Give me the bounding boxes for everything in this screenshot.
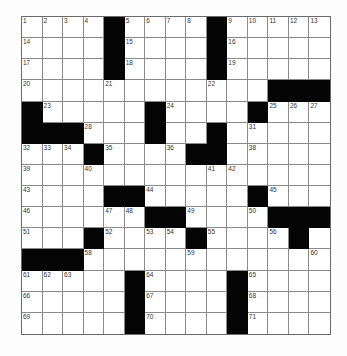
crossword-cell[interactable] [289, 292, 310, 313]
crossword-cell[interactable] [84, 38, 105, 59]
crossword-cell[interactable]: 14 [22, 38, 43, 59]
crossword-cell[interactable] [309, 313, 330, 334]
crossword-cell[interactable]: 65 [248, 271, 269, 292]
crossword-cell[interactable] [268, 249, 289, 270]
crossword-cell[interactable] [207, 271, 228, 292]
crossword-cell[interactable]: 46 [22, 207, 43, 228]
crossword-cell[interactable]: 39 [22, 165, 43, 186]
crossword-cell[interactable] [63, 313, 84, 334]
crossword-cell[interactable]: 32 [22, 144, 43, 165]
crossword-cell[interactable] [207, 292, 228, 313]
crossword-cell[interactable] [309, 38, 330, 59]
crossword-cell[interactable] [43, 228, 64, 249]
crossword-cell[interactable] [289, 123, 310, 144]
crossword-cell[interactable] [227, 123, 248, 144]
crossword-cell[interactable] [84, 313, 105, 334]
crossword-cell[interactable] [207, 186, 228, 207]
crossword-cell[interactable] [166, 186, 187, 207]
crossword-cell[interactable]: 52 [104, 228, 125, 249]
crossword-cell[interactable]: 50 [248, 207, 269, 228]
crossword-cell[interactable] [186, 102, 207, 123]
crossword-cell[interactable] [227, 249, 248, 270]
crossword-cell[interactable]: 44 [145, 186, 166, 207]
crossword-cell[interactable] [289, 313, 310, 334]
crossword-cell[interactable]: 27 [309, 102, 330, 123]
crossword-cell[interactable] [289, 186, 310, 207]
crossword-cell[interactable] [207, 207, 228, 228]
crossword-cell[interactable]: 55 [207, 228, 228, 249]
crossword-cell[interactable] [186, 38, 207, 59]
crossword-cell[interactable] [309, 123, 330, 144]
crossword-cell[interactable]: 60 [309, 249, 330, 270]
crossword-cell[interactable] [289, 271, 310, 292]
crossword-cell[interactable]: 71 [248, 313, 269, 334]
crossword-cell[interactable] [186, 271, 207, 292]
crossword-cell[interactable] [227, 207, 248, 228]
crossword-cell[interactable] [63, 207, 84, 228]
crossword-cell[interactable] [268, 144, 289, 165]
crossword-cell[interactable] [84, 271, 105, 292]
crossword-cell[interactable]: 51 [22, 228, 43, 249]
crossword-cell[interactable] [309, 59, 330, 80]
crossword-cell[interactable] [145, 144, 166, 165]
crossword-cell[interactable] [227, 80, 248, 101]
crossword-cell[interactable] [125, 165, 146, 186]
crossword-cell[interactable] [166, 165, 187, 186]
crossword-cell[interactable]: 2 [43, 17, 64, 38]
crossword-cell[interactable] [186, 313, 207, 334]
crossword-cell[interactable]: 34 [63, 144, 84, 165]
crossword-cell[interactable]: 25 [268, 102, 289, 123]
crossword-cell[interactable] [227, 102, 248, 123]
crossword-cell[interactable] [268, 59, 289, 80]
crossword-cell[interactable] [289, 144, 310, 165]
crossword-cell[interactable] [309, 228, 330, 249]
crossword-cell[interactable] [43, 59, 64, 80]
crossword-cell[interactable] [166, 80, 187, 101]
crossword-cell[interactable] [289, 249, 310, 270]
crossword-cell[interactable]: 64 [145, 271, 166, 292]
crossword-cell[interactable] [145, 80, 166, 101]
crossword-cell[interactable]: 67 [145, 292, 166, 313]
crossword-cell[interactable] [227, 228, 248, 249]
crossword-cell[interactable] [125, 80, 146, 101]
crossword-cell[interactable] [268, 38, 289, 59]
crossword-cell[interactable]: 54 [166, 228, 187, 249]
crossword-cell[interactable]: 66 [22, 292, 43, 313]
crossword-cell[interactable]: 36 [166, 144, 187, 165]
crossword-cell[interactable] [43, 80, 64, 101]
crossword-cell[interactable] [289, 165, 310, 186]
crossword-cell[interactable]: 41 [207, 165, 228, 186]
crossword-cell[interactable]: 13 [309, 17, 330, 38]
crossword-cell[interactable] [186, 80, 207, 101]
crossword-cell[interactable]: 33 [43, 144, 64, 165]
crossword-cell[interactable]: 35 [104, 144, 125, 165]
crossword-cell[interactable]: 23 [43, 102, 64, 123]
crossword-cell[interactable] [145, 165, 166, 186]
crossword-cell[interactable] [125, 123, 146, 144]
crossword-cell[interactable] [104, 123, 125, 144]
crossword-cell[interactable] [227, 186, 248, 207]
crossword-cell[interactable]: 10 [248, 17, 269, 38]
crossword-cell[interactable] [63, 165, 84, 186]
crossword-cell[interactable] [125, 249, 146, 270]
crossword-cell[interactable] [166, 249, 187, 270]
crossword-cell[interactable] [268, 271, 289, 292]
crossword-cell[interactable]: 40 [84, 165, 105, 186]
crossword-cell[interactable] [268, 313, 289, 334]
crossword-cell[interactable] [309, 144, 330, 165]
crossword-cell[interactable]: 47 [104, 207, 125, 228]
crossword-cell[interactable] [268, 123, 289, 144]
crossword-cell[interactable] [43, 165, 64, 186]
crossword-cell[interactable]: 22 [207, 80, 228, 101]
crossword-cell[interactable] [84, 59, 105, 80]
crossword-cell[interactable]: 15 [125, 38, 146, 59]
crossword-cell[interactable]: 16 [227, 38, 248, 59]
crossword-cell[interactable] [63, 102, 84, 123]
crossword-cell[interactable]: 5 [125, 17, 146, 38]
crossword-cell[interactable] [207, 313, 228, 334]
crossword-cell[interactable] [248, 59, 269, 80]
crossword-cell[interactable] [104, 165, 125, 186]
crossword-cell[interactable] [166, 292, 187, 313]
crossword-cell[interactable] [207, 249, 228, 270]
crossword-cell[interactable] [268, 292, 289, 313]
